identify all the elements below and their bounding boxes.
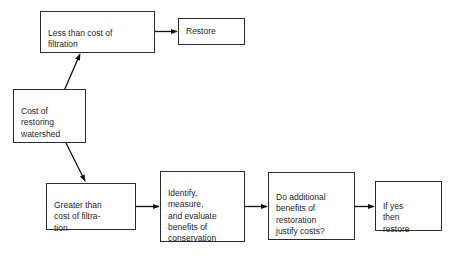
node-identify-measure-evaluate[interactable]: Identify, measure, and evaluate benefits… (160, 171, 245, 242)
flowchart-canvas: Less than cost of filtration Restore Cos… (0, 0, 466, 256)
node-label: Less than cost of filtration (48, 28, 147, 50)
node-cost-of-restoring-watershed[interactable]: Cost of restoring watershed (13, 89, 86, 143)
node-less-than-cost-of-filtration[interactable]: Less than cost of filtration (40, 11, 155, 53)
node-label: Cost of restoring watershed (21, 106, 78, 140)
node-label: Do additional benefits of restoration ju… (276, 192, 347, 237)
node-restore[interactable]: Restore (178, 18, 245, 45)
node-label: Identify, measure, and evaluate benefits… (168, 188, 237, 244)
node-if-yes-then-restore[interactable]: If yes then restore (375, 181, 442, 231)
node-label: Restore (186, 26, 216, 37)
node-greater-than-cost-of-filtration[interactable]: Greater than cost of filtra- tion (46, 183, 136, 230)
node-label: Greater than cost of filtra- tion (54, 200, 128, 234)
node-do-additional-benefits[interactable]: Do additional benefits of restoration ju… (268, 172, 355, 240)
node-label: If yes then restore (383, 201, 434, 235)
